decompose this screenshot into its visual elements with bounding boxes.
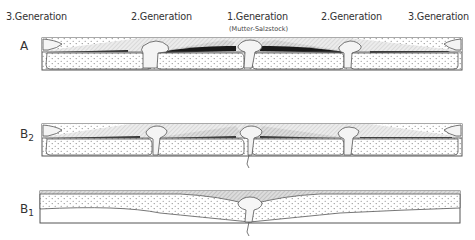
section-b2 xyxy=(42,124,462,168)
salt-diapir-diagram xyxy=(0,0,475,240)
section-a xyxy=(42,38,462,70)
section-b1 xyxy=(40,191,460,236)
